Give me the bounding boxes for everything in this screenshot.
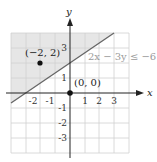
y-tick-label: -2 <box>58 118 67 128</box>
y-tick-label: -1 <box>58 103 67 113</box>
point-origin <box>67 90 73 96</box>
point-neg2-2 <box>37 60 42 65</box>
inequality-graph: x y -2 -1 1 2 3 3 1 -1 -2 -3 2x − 3y ≤ −… <box>0 0 157 162</box>
y-tick-label: 1 <box>61 73 67 83</box>
x-axis-arrow-icon <box>136 90 144 96</box>
x-axis-label: x <box>147 87 153 98</box>
point-label: (0, 0) <box>74 77 101 88</box>
x-tick-label: -1 <box>46 96 55 106</box>
y-axis-label: y <box>65 6 72 17</box>
x-tick-label: 3 <box>111 96 117 106</box>
y-tick-label: -3 <box>58 133 67 143</box>
x-tick-label: 2 <box>96 96 102 106</box>
y-tick-label: 3 <box>61 43 67 53</box>
inequality-label: 2x − 3y ≤ −6 <box>88 51 156 62</box>
x-tick-label: 1 <box>82 96 88 106</box>
y-axis-arrow-icon <box>67 18 73 26</box>
point-label: (−2, 2) <box>25 47 60 58</box>
x-tick-label: -2 <box>29 96 38 106</box>
